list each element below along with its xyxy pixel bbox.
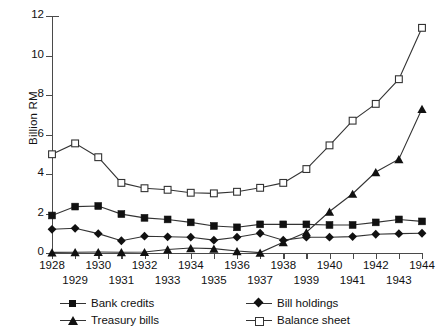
- data-point: [280, 221, 287, 228]
- data-point: [257, 184, 264, 191]
- data-point: [95, 154, 102, 161]
- data-point: [349, 117, 356, 124]
- x-tick: [399, 253, 400, 259]
- data-point: [95, 203, 102, 210]
- data-point: [326, 142, 333, 149]
- data-point: [349, 222, 356, 229]
- data-point: [187, 219, 194, 226]
- series-layer: [52, 16, 422, 253]
- chart-figure: Billion RM 024681012 1928192919301931193…: [0, 0, 444, 334]
- y-tick-label: 0: [18, 245, 44, 257]
- data-point: [163, 232, 172, 241]
- data-point: [325, 233, 334, 242]
- data-point: [49, 212, 56, 219]
- data-point: [117, 236, 126, 245]
- x-tick: [168, 253, 169, 259]
- data-point: [140, 232, 149, 241]
- data-point: [371, 168, 380, 176]
- x-tick-label: 1937: [240, 274, 280, 286]
- x-tick-label: 1939: [286, 274, 326, 286]
- data-point: [141, 214, 148, 221]
- legend-label: Bill holdings: [277, 297, 338, 309]
- y-tick-label: 10: [18, 48, 44, 60]
- data-point: [372, 100, 379, 107]
- filled-diamond-icon: [246, 297, 272, 309]
- x-tick-label: 1938: [263, 259, 303, 271]
- y-tick-label: 6: [18, 127, 44, 139]
- data-point: [419, 24, 426, 31]
- data-point: [164, 186, 171, 193]
- plot-area: 024681012 192819291930193119321933193419…: [52, 16, 422, 253]
- y-tick-label: 4: [18, 166, 44, 178]
- data-point: [49, 151, 56, 158]
- data-point: [94, 229, 103, 238]
- data-point: [72, 203, 79, 210]
- x-tick-label: 1936: [217, 259, 257, 271]
- data-point: [419, 218, 426, 225]
- filled-square-icon: [60, 297, 86, 309]
- filled-triangle-icon: [60, 314, 86, 326]
- data-point: [71, 224, 80, 233]
- data-point: [187, 189, 194, 196]
- y-tick-label: 12: [18, 8, 44, 20]
- legend-item-bill-holdings: Bill holdings: [246, 297, 338, 309]
- data-point: [209, 236, 218, 245]
- x-tick-label: 1940: [310, 259, 350, 271]
- x-tick-label: 1931: [101, 274, 141, 286]
- y-tick-label: 2: [18, 206, 44, 218]
- data-point: [280, 179, 287, 186]
- x-tick: [353, 253, 354, 259]
- data-point: [303, 166, 310, 173]
- legend-label: Treasury bills: [91, 314, 159, 326]
- x-tick-label: 1942: [356, 259, 396, 271]
- data-point: [417, 105, 426, 113]
- data-point: [72, 140, 79, 147]
- x-tick-label: 1929: [55, 274, 95, 286]
- data-point: [394, 155, 403, 163]
- x-tick-label: 1928: [32, 259, 72, 271]
- series-bank-credits: [49, 203, 426, 231]
- data-point: [118, 211, 125, 218]
- data-point: [303, 221, 310, 228]
- data-point: [233, 233, 242, 242]
- chart-legend: Bank credits Bill holdings Treasury bill…: [60, 297, 430, 331]
- data-point: [48, 225, 57, 234]
- data-point: [210, 190, 217, 197]
- y-tick-label: 8: [18, 87, 44, 99]
- x-tick-label: 1944: [402, 259, 442, 271]
- data-point: [372, 219, 379, 226]
- data-point: [257, 221, 264, 228]
- x-tick-label: 1935: [194, 274, 234, 286]
- open-square-icon: [246, 314, 272, 326]
- data-point: [395, 76, 402, 83]
- data-point: [141, 185, 148, 192]
- x-tick-label: 1943: [379, 274, 419, 286]
- legend-item-treasury-bills: Treasury bills: [60, 314, 159, 326]
- data-point: [256, 229, 265, 238]
- data-point: [118, 179, 125, 186]
- data-point: [164, 216, 171, 223]
- series-balance-sheet: [49, 24, 426, 196]
- data-point: [348, 232, 357, 241]
- data-point: [234, 188, 241, 195]
- legend-label: Bank credits: [91, 297, 154, 309]
- x-tick: [306, 253, 307, 259]
- x-tick-label: 1932: [125, 259, 165, 271]
- legend-item-bank-credits: Bank credits: [60, 297, 154, 309]
- x-tick-label: 1934: [171, 259, 211, 271]
- x-tick-label: 1941: [333, 274, 373, 286]
- data-point: [210, 223, 217, 230]
- data-point: [418, 229, 427, 238]
- data-point: [394, 229, 403, 238]
- legend-item-balance-sheet: Balance sheet: [246, 314, 350, 326]
- data-point: [326, 222, 333, 229]
- x-tick: [214, 253, 215, 259]
- x-tick-label: 1930: [78, 259, 118, 271]
- data-point: [395, 216, 402, 223]
- x-tick-label: 1933: [148, 274, 188, 286]
- data-point: [186, 233, 195, 242]
- data-point: [371, 230, 380, 239]
- y-axis-title: Billion RM: [27, 58, 39, 178]
- data-point: [234, 224, 241, 231]
- legend-label: Balance sheet: [277, 314, 350, 326]
